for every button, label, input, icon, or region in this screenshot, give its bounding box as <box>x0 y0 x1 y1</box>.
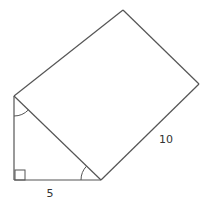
rectangle-bottom-right-side <box>101 84 199 180</box>
angle-arc-bottom-right <box>81 166 87 180</box>
right-angle-marker <box>15 170 25 180</box>
rectangle-top-right-side <box>123 10 199 84</box>
rectangle-side-length-label: 10 <box>159 133 173 146</box>
rectangle-top-left-side <box>14 10 123 96</box>
base-length-label: 5 <box>47 187 54 200</box>
triangle-hypotenuse <box>14 96 101 180</box>
geometry-diagram: 5 10 <box>0 0 208 204</box>
angle-arc-top <box>14 110 28 116</box>
